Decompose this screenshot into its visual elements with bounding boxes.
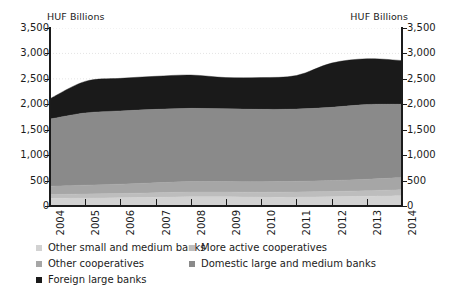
x-axis-tick-label-2007: 2007 [161,210,172,235]
y-axis-tick-label-right: 3,500 [407,22,436,34]
y-axis-tick-label-right: 1,500 [407,124,436,136]
legend-item[interactable]: Domestic large and medium banks [189,256,376,271]
x-axis-tick-mark [226,199,227,206]
y-axis-tick-mark-right [403,104,407,105]
area-band-domestic-large-and-medium-banks [50,104,402,186]
stacked-area-svg [50,28,402,206]
x-axis-tick-label-2013: 2013 [372,210,383,235]
legend-item-label: Domestic large and medium banks [201,256,376,271]
x-axis-tick-mark [120,199,121,206]
y-axis-unit-caption-left: HUF Billions [47,11,105,22]
legend-item[interactable]: More active cooperatives [189,240,376,255]
y-axis-tick-label-right: 3,000 [407,47,436,59]
y-axis-tick-mark-right [403,79,407,80]
plot-area [50,28,402,206]
x-axis-tick-label-2006: 2006 [125,210,136,235]
legend-item-label: More active cooperatives [201,240,327,255]
x-axis-tick-mark [296,199,297,206]
legend-item-label: Foreign large banks [48,272,147,287]
y-axis-tick-mark-left [45,206,49,207]
legend-item[interactable]: Foreign large banks [36,272,205,287]
x-axis-tick-mark [402,199,403,206]
y-axis-tick-label-right: 2,500 [407,73,436,85]
x-axis-tick-mark [261,199,262,206]
y-axis-tick-label-right: 500 [407,175,426,187]
legend-item-label: Other small and medium banks [48,240,205,255]
x-axis-tick-label-2008: 2008 [196,210,207,235]
chart-figure: HUF Billions HUF Billions Other small an… [0,0,452,304]
y-axis-tick-mark-right [403,28,407,29]
y-axis-tick-mark-left [45,53,49,54]
legend-item[interactable]: Other small and medium banks [36,240,205,255]
legend-swatch-icon [189,245,195,251]
y-axis-tick-mark-left [45,155,49,156]
legend-swatch-icon [36,277,42,283]
y-axis-left-spine [49,27,51,207]
y-axis-tick-mark-left [45,79,49,80]
x-axis-tick-label-2011: 2011 [301,210,312,235]
y-axis-unit-caption-right: HUF Billions [350,11,408,22]
y-axis-tick-mark-right [403,130,407,131]
x-axis-tick-mark [191,199,192,206]
x-axis-tick-label-2012: 2012 [337,210,348,235]
y-axis-tick-mark-right [403,206,407,207]
y-axis-tick-mark-left [45,28,49,29]
legend-swatch-icon [36,261,42,267]
y-axis-tick-mark-right [403,155,407,156]
y-axis-tick-mark-right [403,53,407,54]
y-axis-tick-label-right: 1,000 [407,149,436,161]
x-axis-tick-mark [50,199,51,206]
x-axis-tick-mark [85,199,86,206]
x-axis-tick-mark [332,199,333,206]
legend-item-label: Other cooperatives [48,256,144,271]
y-axis-tick-mark-left [45,130,49,131]
chart-legend: Other small and medium banksOther cooper… [0,240,452,296]
x-axis-tick-label-2004: 2004 [55,210,66,235]
legend-swatch-icon [189,261,195,267]
legend-swatch-icon [36,245,42,251]
x-axis-tick-label-2010: 2010 [266,210,277,235]
y-axis-tick-mark-left [45,104,49,105]
legend-item[interactable]: Other cooperatives [36,256,205,271]
legend-column-right: More active cooperativesDomestic large a… [189,240,376,272]
legend-column-left: Other small and medium banksOther cooper… [36,240,205,288]
x-axis-tick-mark [367,199,368,206]
y-axis-tick-mark-right [403,181,407,182]
y-axis-tick-label-right: 2,000 [407,98,436,110]
x-axis-tick-label-2014: 2014 [407,210,418,235]
y-axis-tick-mark-left [45,181,49,182]
x-axis-tick-label-2009: 2009 [231,210,242,235]
x-axis-tick-label-2005: 2005 [90,210,101,235]
x-axis-tick-mark [156,199,157,206]
